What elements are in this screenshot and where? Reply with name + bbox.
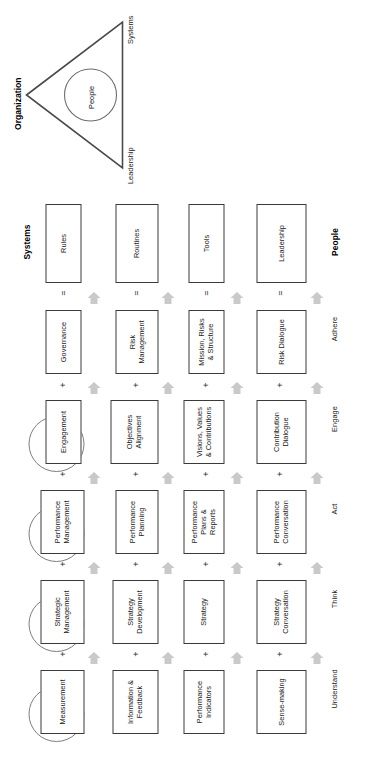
column-header-people: People [330,212,339,272]
row-5-arrow-2 [229,651,244,666]
row-5-outcome: Understand [330,659,339,719]
rotated-diagram-stage: Organization People Leadership Systems S… [0,0,377,772]
triangle-center-label: People [86,86,95,109]
row-4-outcome: Think [330,569,339,629]
row-3-operator-plus-2: + [201,557,210,571]
row-1-operator-plus-1: + [131,378,140,392]
row-2-operator-plus-2: + [201,467,210,481]
row-4-operator-plus-1: + [131,647,140,661]
row-4-operator-plus-0: + [58,647,67,661]
operator-equals-3: = [275,286,284,300]
row-4-box-2[interactable]: Strategy [183,580,224,644]
row-1-box-3[interactable]: Risk Dialogue [256,310,306,374]
row-1-operator-plus-3: + [275,378,284,392]
row-2-arrow-3 [309,381,324,396]
row-5-box-2[interactable]: Performance Indicators [183,670,224,734]
row-4-box-0[interactable]: Strategic Management [40,580,84,644]
column-header-systems: Systems [22,212,31,272]
row-1-arrow-2 [229,291,244,306]
row-5-box-0[interactable]: Measurement [40,670,84,734]
row-4-arrow-2 [229,561,244,576]
row-5-arrow-3 [309,651,324,666]
row-4-arrow-3 [309,561,324,576]
row-3-operator-plus-3: + [275,557,284,571]
row-3-arrow-3 [309,471,324,486]
row-3-box-0[interactable]: Performance Management [40,490,84,554]
operator-equals-0: = [58,286,67,300]
row-4-arrow-1 [160,561,175,576]
diagram-canvas: Organization People Leadership Systems S… [0,0,377,772]
row-1-box-1[interactable]: Risk Management [115,310,158,374]
row-4-operator-plus-2: + [201,647,210,661]
operator-equals-2: = [201,286,210,300]
row-1-arrow-3 [309,291,324,306]
row-3-box-2[interactable]: Performance Plans & Reports [183,490,224,554]
row-5-arrow-1 [160,651,175,666]
row-2-arrow-2 [229,381,244,396]
row-2-box-2[interactable]: Visions, Values & Contributions [183,400,224,464]
row-2-box-0[interactable]: Engagement [45,400,81,464]
operator-equals-1: = [131,286,140,300]
row-2-operator-plus-1: + [131,467,140,481]
row-2-arrow-0 [86,381,101,396]
row-1-operator-plus-2: + [201,378,210,392]
row-2-box-1[interactable]: Objectives Alignment [110,400,158,464]
row-1-outcome: Adhere [330,299,339,359]
triangle-label-leadership: Leadership [125,147,134,184]
row-1-arrow-1 [160,291,175,306]
row-1-operator-plus-0: + [58,378,67,392]
organization-triangle-group: Organization People Leadership Systems [14,10,134,180]
row-0-box-0[interactable]: Rules [45,204,81,283]
row-3-arrow-1 [160,471,175,486]
row-3-box-3[interactable]: Performance Conversation [256,490,306,554]
row-2-outcome: Engage [330,389,339,449]
row-3-arrow-2 [229,471,244,486]
row-4-operator-plus-3: + [275,647,284,661]
row-3-box-1[interactable]: Performance Planning [115,490,158,554]
row-2-operator-plus-3: + [275,467,284,481]
row-2-arrow-1 [160,381,175,396]
row-1-arrow-0 [86,291,101,306]
row-3-outcome: Act [330,479,339,539]
row-4-box-1[interactable]: Strategy Development [112,580,158,644]
row-5-box-1[interactable]: Information & Feedback [112,670,158,734]
row-2-box-3[interactable]: Contribution Dialogue [256,400,306,464]
row-0-box-2[interactable]: Tools [188,204,224,283]
row-3-arrow-0 [86,471,101,486]
triangle-label-systems: Systems [125,16,134,44]
row-2-operator-plus-0: + [58,467,67,481]
row-5-box-3[interactable]: Sense-making [256,670,306,734]
row-1-box-0[interactable]: Governance [45,310,81,374]
row-4-arrow-0 [86,561,101,576]
row-3-operator-plus-0: + [58,557,67,571]
row-4-box-3[interactable]: Strategy Conversation [256,580,306,644]
row-0-box-1[interactable]: Routines [115,204,158,283]
row-1-box-2[interactable]: Mission, Risks & Structure [188,310,224,374]
row-0-box-3[interactable]: Leadership [256,204,306,283]
organization-title: Organization [12,77,22,130]
row-5-arrow-0 [86,651,101,666]
row-3-operator-plus-1: + [131,557,140,571]
